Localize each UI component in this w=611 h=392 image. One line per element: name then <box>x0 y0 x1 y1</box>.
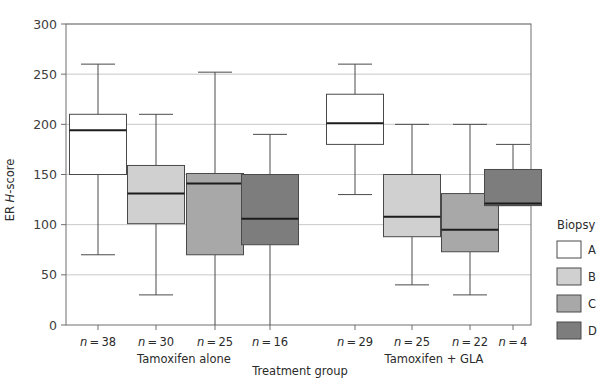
legend-label-d: D <box>588 324 597 338</box>
legend-title: Biopsy <box>557 218 595 232</box>
n-labels: n = 38n = 30n = 25n = 16n = 29n = 25n = … <box>80 335 528 349</box>
n-label: n = 25 <box>197 335 233 349</box>
legend-label-c: C <box>588 297 596 311</box>
box-b <box>384 175 441 237</box>
box-plot-item <box>485 144 542 205</box>
legend-swatch-a <box>557 241 581 258</box>
y-axis-tick-labels: 050100150200250300 <box>33 17 57 333</box>
box-plot-item <box>384 124 441 285</box>
x-axis-title: Treatment group <box>251 364 348 378</box>
group-label: Tamoxifen + GLA <box>384 352 484 366</box>
x-axis-ticks <box>98 325 513 330</box>
n-label: n = 29 <box>337 335 373 349</box>
box-plot-item <box>327 64 384 194</box>
n-label: n = 38 <box>80 335 116 349</box>
box-plot-item <box>442 124 499 295</box>
legend-entry-a[interactable]: A <box>557 241 596 258</box>
y-axis-ticks <box>61 24 66 325</box>
legend-entry-d[interactable]: D <box>557 322 597 339</box>
legend-entries: ABCD <box>557 241 597 339</box>
n-label: n = 25 <box>394 335 430 349</box>
box-d <box>242 175 299 245</box>
y-tick-label: 50 <box>41 267 57 282</box>
n-label: n = 16 <box>252 335 288 349</box>
legend-entry-b[interactable]: B <box>557 268 596 285</box>
legend-swatch-b <box>557 268 581 285</box>
y-tick-label: 150 <box>33 167 57 182</box>
y-tick-label: 0 <box>49 318 57 333</box>
box-plot-item <box>128 114 185 295</box>
legend-swatch-d <box>557 322 581 339</box>
box-c <box>187 173 244 254</box>
box-plot-item <box>242 134 299 325</box>
box-plot-item <box>70 64 127 255</box>
y-tick-label: 200 <box>33 117 57 132</box>
box-a <box>327 94 384 144</box>
box-plot-figure: 050100150200250300 n = 38n = 30n = 25n =… <box>0 0 611 392</box>
boxes-layer <box>70 64 542 325</box>
box-plot-item <box>187 72 244 325</box>
legend-swatch-c <box>557 295 581 312</box>
y-tick-label: 100 <box>33 217 57 232</box>
legend-label-b: B <box>588 270 596 284</box>
box-a <box>70 114 127 174</box>
n-label: n = 30 <box>138 335 174 349</box>
group-label: Tamoxifen alone <box>136 352 231 366</box>
n-label: n = 4 <box>499 335 528 349</box>
box-d <box>485 169 542 205</box>
n-label: n = 22 <box>452 335 488 349</box>
legend-entry-c[interactable]: C <box>557 295 596 312</box>
y-axis-title: ER H-score <box>3 159 17 222</box>
chart-canvas: 050100150200250300 n = 38n = 30n = 25n =… <box>0 0 611 392</box>
y-tick-label: 250 <box>33 67 57 82</box>
legend: Biopsy ABCD <box>557 218 597 339</box>
box-b <box>128 165 185 223</box>
y-tick-label: 300 <box>33 17 57 32</box>
legend-label-a: A <box>588 243 596 257</box>
